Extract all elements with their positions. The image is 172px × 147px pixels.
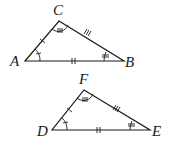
angle-a-tick xyxy=(36,53,41,54)
angle-d-arc xyxy=(62,118,67,130)
side-cb-ticks xyxy=(84,29,91,36)
vertex-label-b: B xyxy=(125,54,134,70)
angle-e-arc xyxy=(130,121,132,130)
angle-f-ticks xyxy=(83,97,87,102)
vertex-label-d: D xyxy=(36,123,48,139)
vertex-label-f: F xyxy=(78,71,89,87)
triangle-def-outline xyxy=(52,90,150,130)
triangle-abc-outline xyxy=(25,21,124,61)
angle-a-arc xyxy=(35,49,40,61)
angle-c-ticks xyxy=(58,28,62,33)
vertex-label-a: A xyxy=(9,53,20,69)
angle-b-arc xyxy=(104,52,106,61)
angle-d-tick xyxy=(63,122,68,123)
vertex-label-e: E xyxy=(151,123,161,139)
vertex-label-c: C xyxy=(53,2,64,18)
triangle-abc: A B C xyxy=(9,2,134,70)
congruent-triangles-diagram: A B C D E F xyxy=(0,0,172,147)
triangle-def: D E F xyxy=(36,71,161,139)
